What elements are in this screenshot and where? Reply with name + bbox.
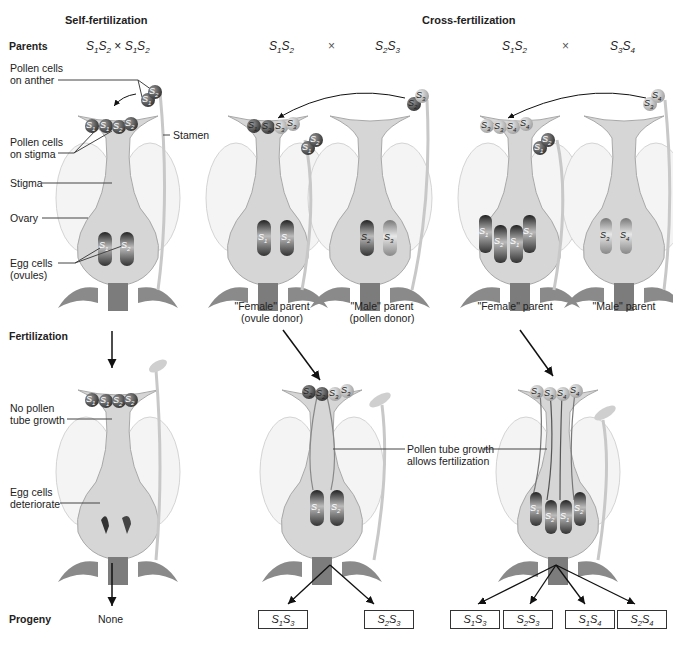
- cross2-female-caption: "Female" parent: [470, 300, 560, 312]
- cross1-times: ×: [328, 39, 335, 53]
- allele-tag: S3: [600, 230, 609, 245]
- allele-tag: S1: [258, 232, 267, 247]
- allele-tag: S4: [652, 90, 661, 105]
- allele-tag: S1: [530, 503, 539, 518]
- allele-tag: S2: [574, 503, 583, 518]
- allele-tag: S1: [86, 120, 95, 135]
- allele-tag: S4: [620, 230, 629, 245]
- allele-tag: S3: [384, 232, 393, 247]
- allele-tag: S2: [361, 232, 370, 247]
- allele-tag: S2: [545, 511, 554, 526]
- allele-tag: S1: [479, 226, 488, 241]
- allele-tag: S2: [303, 386, 312, 401]
- allele-tag: S4: [507, 121, 516, 136]
- progeny-box: S2S4: [617, 610, 667, 629]
- cross1-female-caption: "Female" parent(ovule donor): [232, 300, 312, 324]
- allele-tag: S2: [331, 502, 340, 517]
- allele-tag: S1: [100, 395, 109, 410]
- label-pollen-tube-growth: Pollen tube growthallows fertilization: [407, 443, 494, 467]
- allele-tag: S2: [113, 395, 122, 410]
- allele-tag: S2: [125, 394, 134, 409]
- label-ovary: Ovary: [10, 212, 38, 224]
- allele-tag: S3: [275, 121, 284, 136]
- label-pollen-on-stigma: Pollen cellson stigma: [10, 136, 63, 160]
- allele-tag: S2: [310, 134, 319, 149]
- cross2-times: ×: [562, 39, 569, 53]
- progeny-box: S1S4: [565, 610, 615, 629]
- allele-tag: S2: [523, 226, 532, 241]
- allele-tag: S3: [531, 386, 540, 401]
- allele-tag: S3: [416, 90, 425, 105]
- progeny-box: S2S3: [503, 610, 553, 629]
- allele-tag: S2: [125, 118, 134, 133]
- label-stamen: Stamen: [173, 129, 209, 141]
- label-stigma: Stigma: [10, 177, 43, 189]
- allele-tag: S1: [100, 120, 109, 135]
- allele-tag: S2: [494, 236, 503, 251]
- allele-tag: S1: [99, 240, 108, 255]
- progeny-box: S2S3: [364, 610, 414, 629]
- allele-tag: S4: [570, 385, 579, 400]
- allele-tag: S1: [311, 502, 320, 517]
- row-label-parents: Parents: [9, 40, 48, 52]
- allele-tag: S1: [86, 394, 95, 409]
- allele-tag: S2: [149, 86, 158, 101]
- allele-tag: S3: [544, 388, 553, 403]
- cross2-female-genotype: S1S2: [502, 39, 527, 55]
- cross1-female-genotype: S1S2: [269, 39, 294, 55]
- label-no-pollen-tube: No pollentube growth: [10, 402, 65, 426]
- row-label-progeny: Progeny: [9, 613, 51, 625]
- allele-tag: S1: [510, 236, 519, 251]
- allele-tag: S3: [481, 120, 490, 135]
- allele-tag: S2: [316, 388, 325, 403]
- allele-tag: S2: [121, 240, 130, 255]
- allele-tag: S1: [560, 511, 569, 526]
- allele-tag: S3: [341, 385, 350, 400]
- allele-tag: S3: [329, 388, 338, 403]
- self-cross-notation: S1S2 × S1S2: [86, 39, 150, 55]
- label-pollen-on-anther: Pollen cellson anther: [10, 62, 63, 86]
- allele-tag: S2: [542, 134, 551, 149]
- progeny-box: S1S3: [450, 610, 500, 629]
- label-egg-cells-deteriorate: Egg cellsdeteriorate: [10, 486, 60, 510]
- label-egg-cells: Egg cells(ovules): [10, 257, 53, 281]
- allele-tag: S4: [557, 388, 566, 403]
- cross2-male-caption: "Male" parent: [584, 300, 664, 312]
- flower-illustrations: [0, 0, 673, 648]
- allele-tag: S2: [113, 121, 122, 136]
- allele-tag: S3: [494, 121, 503, 136]
- header-self-fertilization: Self-fertilization: [65, 14, 148, 26]
- progeny-box: S1S3: [258, 610, 308, 629]
- cross2-male-genotype: S3S4: [610, 39, 635, 55]
- header-cross-fertilization: Cross-fertilization: [422, 14, 516, 26]
- allele-tag: S2: [281, 232, 290, 247]
- allele-tag: S4: [520, 118, 529, 133]
- cross1-male-caption: "Male" parent(pollen donor): [342, 300, 422, 324]
- row-label-fertilization: Fertilization: [9, 330, 68, 342]
- self-progeny-none: None: [98, 613, 123, 625]
- allele-tag: S3: [287, 118, 296, 133]
- cross1-male-genotype: S2S3: [375, 39, 400, 55]
- allele-tag: S1: [248, 120, 257, 135]
- allele-tag: S2: [262, 121, 271, 136]
